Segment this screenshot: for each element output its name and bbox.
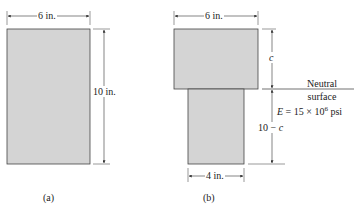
top-flange-section-b	[174, 29, 258, 89]
modulus-label: E = 15 × 106 psi	[277, 104, 342, 117]
ten-minus-c-label: 10 − c	[257, 122, 284, 133]
neutral-label-line1: Neutral	[302, 78, 342, 89]
bottom-width-label-b: 4 in.	[205, 170, 225, 181]
ten-minus-prefix: 10 −	[258, 122, 279, 133]
ten-minus-c-var: c	[279, 122, 283, 133]
c-label: c	[268, 52, 274, 63]
width-label-a: 6 in.	[37, 10, 57, 21]
neutral-label-line2: surface	[302, 91, 342, 102]
caption-b: (b)	[203, 192, 215, 203]
caption-a: (a)	[43, 192, 54, 203]
top-width-label-b: 6 in.	[204, 10, 224, 21]
bottom-web-section-b	[188, 89, 244, 164]
modulus-text: = 15 × 10	[283, 106, 324, 117]
height-label-a: 10 in.	[92, 86, 117, 97]
modulus-unit: psi	[328, 106, 342, 117]
rectangle-section-a	[7, 29, 90, 164]
